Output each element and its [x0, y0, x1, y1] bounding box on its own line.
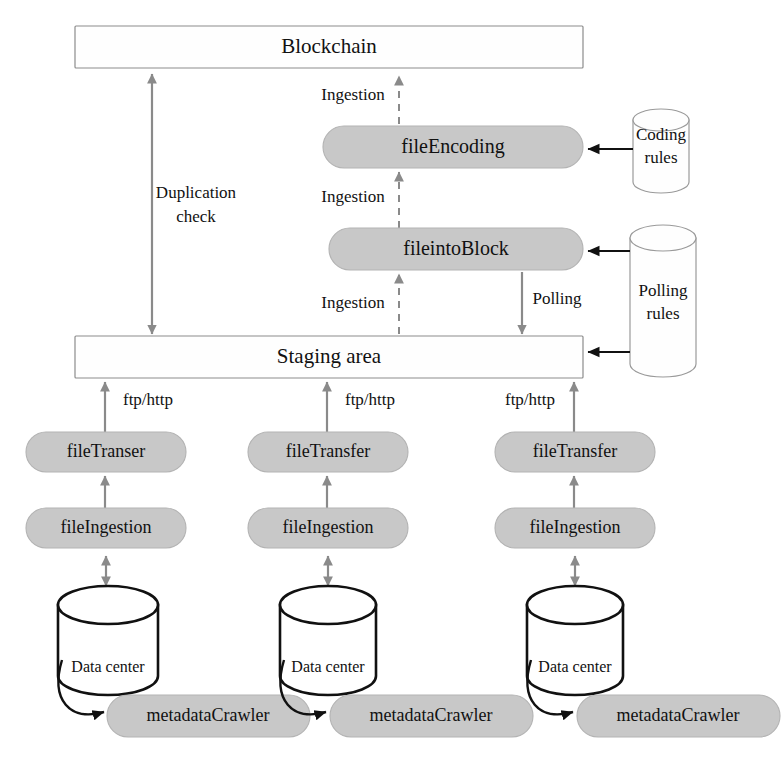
node-file-into-block[interactable]: fileintoBlock [329, 228, 583, 270]
ftp-http-label-3: ftp/http [505, 390, 555, 409]
polling-label: Polling [532, 289, 582, 308]
node-file-encoding-label: fileEncoding [401, 135, 504, 158]
node-polling-rules-label-line2: rules [646, 304, 679, 323]
node-metadata-crawler-label-3: metadataCrawler [617, 705, 740, 725]
node-staging-area[interactable]: Staging area [75, 336, 583, 378]
edge-ftp-http-3: ftp/http [505, 382, 574, 432]
duplication-check-label-line1: Duplication [156, 183, 237, 202]
node-data-center-label-1: Data center [71, 658, 145, 675]
edge-ftp-http-1: ftp/http [105, 382, 173, 432]
node-data-center-label-3: Data center [538, 658, 612, 675]
ingestion-middle-label: Ingestion [321, 187, 385, 206]
node-coding-rules[interactable]: Coding rules [633, 109, 689, 193]
node-file-transfer-1[interactable]: fileTranser [26, 432, 186, 472]
node-staging-area-label: Staging area [277, 344, 382, 368]
node-file-transfer-label-2: fileTransfer [286, 441, 370, 461]
node-coding-rules-label-line2: rules [644, 148, 677, 167]
node-polling-rules[interactable]: Polling rules [630, 225, 696, 377]
node-polling-rules-label-line1: Polling [638, 281, 688, 300]
ingestion-bottom-label: Ingestion [321, 293, 385, 312]
node-data-center-label-2: Data center [291, 658, 365, 675]
node-file-ingestion-label-2: fileIngestion [283, 517, 374, 537]
architecture-diagram: Blockchain Duplication check Ingestion f… [0, 0, 782, 770]
duplication-check-label-line2: check [176, 207, 216, 226]
node-metadata-crawler-label-2: metadataCrawler [370, 705, 493, 725]
ftp-http-label-2: ftp/http [345, 390, 395, 409]
node-data-center-3[interactable]: Data center [527, 586, 623, 695]
edge-ingestion-top: Ingestion [321, 76, 399, 124]
node-file-transfer-label-3: fileTransfer [533, 441, 617, 461]
node-file-transfer-label-1: fileTranser [67, 441, 145, 461]
node-metadata-crawler-1[interactable]: metadataCrawler [107, 695, 310, 737]
node-file-transfer-3[interactable]: fileTransfer [495, 432, 655, 472]
node-metadata-crawler-2[interactable]: metadataCrawler [330, 695, 533, 737]
node-file-encoding[interactable]: fileEncoding [323, 126, 583, 168]
edge-duplication-check: Duplication check [152, 74, 237, 334]
node-file-ingestion-label-1: fileIngestion [61, 517, 152, 537]
node-blockchain-label: Blockchain [281, 34, 377, 58]
node-file-transfer-2[interactable]: fileTransfer [248, 432, 408, 472]
node-metadata-crawler-label-1: metadataCrawler [147, 705, 270, 725]
node-file-into-block-label: fileintoBlock [403, 237, 509, 259]
node-coding-rules-label-line1: Coding [636, 125, 687, 144]
ingestion-top-label: Ingestion [321, 85, 385, 104]
edge-polling: Polling [522, 272, 582, 334]
edge-ftp-http-2: ftp/http [327, 382, 395, 432]
node-file-ingestion-1[interactable]: fileIngestion [26, 508, 186, 548]
diagram-canvas: Blockchain Duplication check Ingestion f… [0, 0, 782, 770]
ftp-http-label-1: ftp/http [123, 390, 173, 409]
node-file-ingestion-3[interactable]: fileIngestion [495, 508, 655, 548]
node-blockchain[interactable]: Blockchain [75, 26, 583, 68]
edge-ingestion-middle: Ingestion [321, 172, 399, 228]
node-metadata-crawler-3[interactable]: metadataCrawler [577, 695, 780, 737]
node-data-center-2[interactable]: Data center [280, 586, 376, 695]
node-file-ingestion-label-3: fileIngestion [530, 517, 621, 537]
node-data-center-1[interactable]: Data center [58, 586, 158, 695]
node-file-ingestion-2[interactable]: fileIngestion [248, 508, 408, 548]
edge-ingestion-bottom: Ingestion [321, 274, 399, 334]
